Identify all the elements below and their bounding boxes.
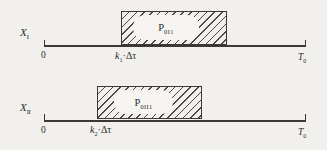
delay-delta-tau: Δτ [101,124,111,135]
pulse-label-x2: P0II1 [135,97,153,108]
pulse-label-window-x2: P0II1 [114,90,173,114]
pulse-rect-x1: P0I1 [121,11,227,45]
time-axis-x2 [44,120,306,122]
axis-period-label-x2: T0 [298,127,306,137]
signal-label-x1: XI [20,26,28,38]
pulse-label-x1: P0I1 [158,22,173,33]
delay-delta-tau: Δτ [126,50,136,61]
period-subscript: 0 [303,133,306,139]
axis-period-label-x1: T0 [298,52,306,62]
axis-origin-tick-x2 [44,114,46,121]
axis-origin-label-x2: 0 [41,125,46,135]
signal-base: X [20,26,27,38]
pulse-label-window-x1: P0I1 [133,15,199,40]
delay-label-x1: k1·Δτ [115,50,136,61]
period-subscript: 0 [303,58,306,64]
signal-label-x2: XII [20,101,30,113]
axis-origin-label-x1: 0 [41,50,46,60]
time-axis-x1 [44,45,306,47]
axis-origin-tick-x1 [44,40,46,47]
signal-subscript: II [27,108,30,115]
delay-label-x2: k2·Δτ [90,124,111,135]
signal-subscript: I [27,33,29,40]
pulse-rect-x2: P0II1 [97,86,202,119]
pulse-label-subscript: 0I1 [164,28,174,35]
axis-end-tick-x1 [305,40,307,47]
pulse-label-subscript: 0II1 [140,103,152,110]
signal-base: X [20,101,27,113]
timing-diagram: XI 0 T0 P0I1 k1·Δτ XII 0 T0 P0II1 k2·Δτ [0,0,327,150]
axis-end-tick-x2 [305,114,307,121]
